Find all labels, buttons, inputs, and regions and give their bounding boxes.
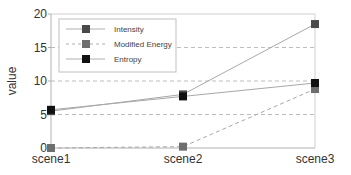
data-point-marker xyxy=(311,20,319,28)
y-tick-label: 20 xyxy=(34,7,48,21)
legend-marker xyxy=(82,55,90,63)
legend: IntensityModified EnergyEntropy xyxy=(59,19,176,72)
x-tick-label: scene1 xyxy=(32,152,71,166)
line-chart: 05101520scene1scene2scene3 IntensityModi… xyxy=(0,0,351,175)
legend-label: Entropy xyxy=(114,55,142,64)
y-tick-label: 10 xyxy=(34,74,48,88)
legend-label: Modified Energy xyxy=(114,40,172,49)
data-point-marker xyxy=(179,92,187,100)
data-point-marker xyxy=(47,144,55,152)
y-tick-label: 15 xyxy=(34,41,48,55)
y-tick-label: 5 xyxy=(40,108,47,122)
legend-label: Intensity xyxy=(114,25,144,34)
data-point-marker xyxy=(311,79,319,87)
legend-marker xyxy=(82,40,90,48)
data-point-marker xyxy=(47,106,55,114)
data-point-marker xyxy=(179,143,187,151)
y-axis-label: value xyxy=(5,66,19,95)
x-tick-label: scene3 xyxy=(296,152,335,166)
x-tick-label: scene2 xyxy=(164,152,203,166)
legend-marker xyxy=(82,25,90,33)
